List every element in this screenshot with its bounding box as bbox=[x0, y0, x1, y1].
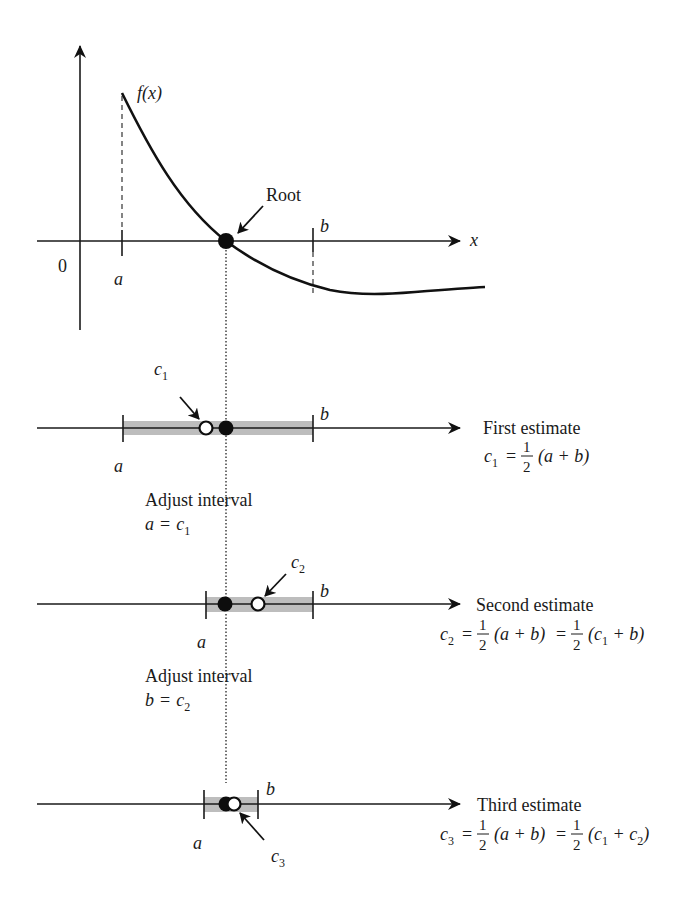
svg-text:2: 2 bbox=[573, 637, 581, 653]
svg-text:c2: c2 bbox=[440, 624, 454, 648]
root-point bbox=[219, 421, 234, 436]
x-axis-label: x bbox=[469, 230, 478, 250]
svg-text:=: = bbox=[462, 824, 472, 844]
origin-label: 0 bbox=[58, 256, 67, 276]
estimate-point-c1 bbox=[200, 422, 213, 435]
estimate-formula: c2 = 1 2 (a + b) = 1 2 (c1 + b) bbox=[440, 617, 644, 653]
svg-text:c1: c1 bbox=[484, 446, 498, 470]
svg-text:1: 1 bbox=[479, 817, 487, 833]
a-label: a bbox=[114, 456, 123, 476]
step-first-estimate: a b c1 First estimate c1 = 1 2 (a + b) A… bbox=[37, 359, 589, 538]
step-title: Second estimate bbox=[476, 595, 593, 615]
svg-text:2: 2 bbox=[479, 837, 487, 853]
adjust-interval-title: Adjust interval bbox=[145, 666, 252, 686]
root-label: Root bbox=[266, 185, 301, 205]
c2-pointer-arrow bbox=[265, 574, 286, 596]
svg-text:2: 2 bbox=[523, 459, 531, 475]
a-label: a bbox=[197, 632, 206, 652]
svg-text:1: 1 bbox=[479, 617, 487, 633]
function-graph: x 0 a b f(x) Root bbox=[37, 46, 485, 330]
estimate-formula: c3 = 1 2 (a + b) = 1 2 (c1 + c2) bbox=[440, 817, 649, 853]
svg-text:=: = bbox=[506, 446, 516, 466]
a-label: a bbox=[193, 833, 202, 853]
adjust-interval-rule: b=c2 bbox=[145, 690, 190, 714]
b-label: b bbox=[320, 581, 329, 601]
b-label: b bbox=[320, 216, 329, 236]
svg-text:(a + b): (a + b) bbox=[538, 446, 589, 467]
b-label: b bbox=[266, 779, 275, 799]
root-point bbox=[218, 233, 234, 249]
step-third-estimate: a b c3 Third estimate c3 = 1 2 (a + b) =… bbox=[37, 779, 649, 870]
svg-text:1: 1 bbox=[573, 617, 581, 633]
svg-text:2: 2 bbox=[573, 837, 581, 853]
c3-label: c3 bbox=[271, 846, 285, 870]
root-pointer-arrow bbox=[238, 206, 263, 233]
adjust-interval-title: Adjust interval bbox=[145, 490, 252, 510]
step-title: First estimate bbox=[483, 418, 581, 438]
step-second-estimate: a b c2 Second estimate c2 = 1 2 (a + b) … bbox=[37, 552, 644, 714]
svg-text:(a + b): (a + b) bbox=[494, 624, 545, 645]
svg-text:(c1 + c2): (c1 + c2) bbox=[588, 824, 649, 848]
svg-text:(a + b): (a + b) bbox=[494, 824, 545, 845]
svg-text:1: 1 bbox=[573, 817, 581, 833]
estimate-point-c3 bbox=[228, 798, 241, 811]
estimate-point-c2 bbox=[252, 598, 265, 611]
adjust-interval-rule: a=c1 bbox=[145, 514, 190, 538]
svg-text:1: 1 bbox=[523, 439, 531, 455]
function-curve bbox=[122, 93, 485, 294]
svg-text:=: = bbox=[556, 624, 566, 644]
b-label: b bbox=[320, 404, 329, 424]
svg-text:=: = bbox=[462, 624, 472, 644]
a-label: a bbox=[114, 269, 123, 289]
svg-text:(c1 + b): (c1 + b) bbox=[588, 624, 644, 648]
function-label: f(x) bbox=[137, 83, 162, 104]
svg-text:=: = bbox=[556, 824, 566, 844]
bisection-diagram: x 0 a b f(x) Root a b c1 First estimate … bbox=[0, 0, 694, 910]
root-point bbox=[218, 597, 233, 612]
svg-text:2: 2 bbox=[479, 637, 487, 653]
c3-pointer-arrow bbox=[240, 813, 264, 840]
c1-pointer-arrow bbox=[180, 397, 199, 419]
c1-label: c1 bbox=[154, 359, 168, 383]
estimate-formula: c1 = 1 2 (a + b) bbox=[484, 439, 589, 475]
step-title: Third estimate bbox=[477, 795, 581, 815]
svg-text:c3: c3 bbox=[440, 824, 454, 848]
c2-label: c2 bbox=[291, 552, 305, 576]
